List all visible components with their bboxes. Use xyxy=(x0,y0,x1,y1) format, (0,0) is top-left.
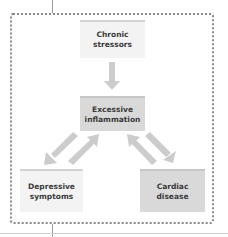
node-excessive-inflammation: Excessive inflammation xyxy=(80,96,145,131)
node-depressive-symptoms: Depressive symptoms xyxy=(20,169,83,212)
node-cardiac-disease-line1: Cardiac xyxy=(156,182,188,192)
node-chronic-stressors-line1: Chronic xyxy=(93,30,132,40)
node-depressive-symptoms-line2: symptoms xyxy=(28,192,75,202)
node-excessive-inflammation-line1: Excessive xyxy=(85,105,141,115)
bottom-connector-line xyxy=(52,224,53,237)
node-cardiac-disease: Cardiac disease xyxy=(140,169,205,212)
node-excessive-inflammation-line2: inflammation xyxy=(85,115,141,125)
node-chronic-stressors: Chronic stressors xyxy=(80,20,145,58)
bottom-divider xyxy=(0,233,228,234)
node-depressive-symptoms-line1: Depressive xyxy=(28,182,75,192)
down-arrow-icon xyxy=(104,62,120,90)
node-cardiac-disease-line2: disease xyxy=(156,192,188,202)
node-chronic-stressors-line2: stressors xyxy=(93,40,132,50)
